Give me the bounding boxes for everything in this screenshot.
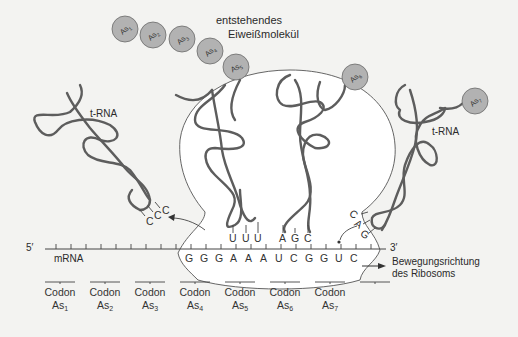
codon-amino-acid: As7 [322,299,338,312]
codon-amino-acid: As2 [97,299,113,312]
svg-text:U: U [254,232,262,244]
translation-diagram: As1 As2 As3 As4 As5 entstehendes Eiweißm… [0,0,518,337]
mrna-base: C [350,252,358,264]
codon-bracket [135,282,165,284]
codon-label: Codon [45,286,76,298]
mrna-base: G [215,252,223,264]
codon-amino-acid: As4 [187,299,203,312]
codon-label: Codon [315,286,346,298]
svg-text:U: U [242,232,250,244]
mrna-base: C [290,252,298,264]
mrna-base: U [335,252,343,264]
svg-text:C: C [154,209,162,221]
three-prime-label: 3′ [390,242,398,253]
svg-text:A: A [279,232,286,244]
mrna-base: G [185,252,193,264]
trna-left [34,85,150,210]
codon-bracket [360,282,390,284]
codon-bracket [90,282,120,284]
direction-label-line1: Bewegungsrichtung [392,256,480,267]
amino-acid-3: As3 [169,26,195,52]
codon-bracket [45,282,75,284]
amino-acid-7: As7 [462,88,488,114]
mrna-base: A [230,252,237,264]
codon-amino-acid: As5 [232,299,248,312]
svg-text:C: C [146,215,154,227]
mrna-base: A [245,252,252,264]
svg-text:C: C [304,232,312,244]
nascent-protein-label-line2: Eiweißmolekül [228,28,299,40]
svg-text:U: U [229,232,237,244]
nascent-protein-label-line1: entstehendes [216,14,283,26]
mrna-base: G [200,252,208,264]
codon-amino-acid: As3 [142,299,158,312]
trna-left-label: t-RNA [90,108,118,119]
amino-acid-5: As5 [223,54,249,80]
amino-acid-6: As6 [342,64,368,90]
codon-labels: CodonAs1CodonAs2CodonAs3CodonAs4CodonAs5… [45,282,390,312]
trna-right-label: t-RNA [432,126,460,137]
mrna-base: A [260,252,267,264]
codon-label: Codon [90,286,121,298]
five-prime-label: 5′ [26,242,34,253]
amino-acid-2: As2 [140,22,166,48]
anticodon-left: C C C [140,202,170,227]
codon-amino-acid: As6 [277,299,293,312]
mrna-label: mRNA [54,253,84,264]
codon-amino-acid: As1 [52,299,68,312]
svg-text:G: G [291,232,299,244]
codon-label: Codon [180,286,211,298]
codon-bracket [180,282,210,284]
amino-acid-4: As4 [197,38,223,64]
amino-acid-1: As1 [112,16,138,42]
svg-text:C: C [162,204,170,216]
codon-label: Codon [225,286,256,298]
mrna-base: G [320,252,328,264]
mrna-base: U [275,252,283,264]
mrna-base: G [305,252,313,264]
codon-label: Codon [270,286,301,298]
codon-label: Codon [135,286,166,298]
ribosome [178,70,395,289]
direction-label-line2: des Ribosoms [392,268,455,279]
